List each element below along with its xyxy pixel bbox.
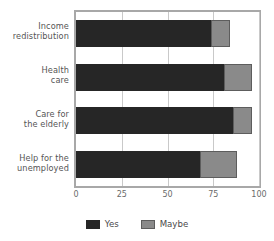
category-label: Income redistribution	[0, 22, 69, 41]
category-label-line: care	[0, 76, 69, 86]
category-label: Care for the elderly	[0, 110, 69, 129]
gridline	[259, 12, 260, 186]
category-label-line: the elderly	[0, 120, 69, 130]
bar-row	[76, 20, 259, 47]
bar-segment-maybe	[200, 151, 237, 178]
plot-area	[74, 10, 261, 188]
legend-item-yes: Yes	[86, 219, 119, 229]
bar-segment-maybe	[233, 107, 251, 134]
category-label: Health care	[0, 66, 69, 85]
bar-segment-maybe	[211, 20, 229, 47]
bar-segment-maybe	[224, 64, 251, 91]
x-axis-tick-label: 50	[162, 190, 172, 199]
legend-swatch-icon	[86, 220, 100, 229]
bar-segment-yes	[76, 151, 200, 178]
x-axis-tick-label: 100	[251, 190, 266, 199]
legend-item-maybe: Maybe	[141, 219, 189, 229]
x-axis: 0255075100	[74, 190, 261, 206]
category-label: Help for the unemployed	[0, 154, 69, 173]
category-label-line: redistribution	[0, 32, 69, 42]
x-axis-tick-label: 0	[73, 190, 78, 199]
bar-segment-yes	[76, 20, 211, 47]
legend-label: Maybe	[160, 219, 189, 229]
bar-row	[76, 107, 259, 134]
category-label-line: unemployed	[0, 164, 69, 174]
bar-segment-yes	[76, 64, 224, 91]
legend: Yes Maybe	[0, 216, 274, 232]
bar-row	[76, 64, 259, 91]
x-axis-tick-label: 25	[117, 190, 127, 199]
category-axis-labels: Income redistribution Health care Care f…	[0, 10, 72, 188]
x-axis-tick-label: 75	[208, 190, 218, 199]
bar-segment-yes	[76, 107, 233, 134]
stacked-bar-chart: Income redistribution Health care Care f…	[0, 0, 274, 241]
legend-swatch-icon	[141, 220, 155, 229]
legend-label: Yes	[105, 219, 119, 229]
plot-inner	[76, 12, 259, 186]
bar-row	[76, 151, 259, 178]
